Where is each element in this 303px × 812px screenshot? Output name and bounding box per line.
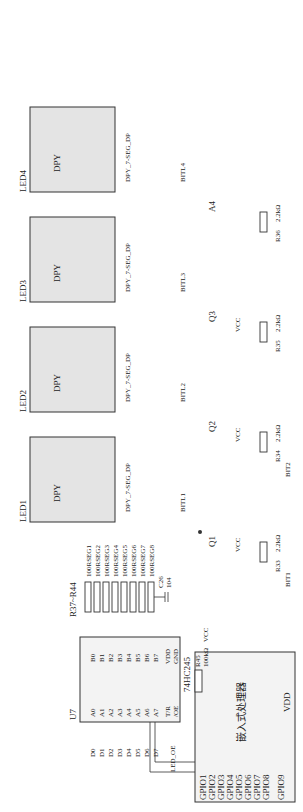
- buffer-ref: U7: [68, 709, 78, 720]
- svg-text:R35: R35: [274, 340, 282, 352]
- svg-text:B0: B0: [89, 653, 97, 662]
- svg-text:/OE: /OE: [172, 706, 180, 717]
- svg-text:100RSEG6: 100RSEG6: [130, 545, 138, 577]
- svg-text:VCC: VCC: [234, 427, 242, 442]
- svg-text:A0: A0: [89, 708, 97, 717]
- display-led3: LED3 DPY DPY_7-SEG_DP: [18, 217, 132, 302]
- svg-text:2.2kΩ: 2.2kΩ: [274, 315, 282, 332]
- svg-text:D3: D3: [116, 748, 124, 757]
- svg-text:DPY: DPY: [52, 153, 62, 172]
- svg-text:GPIO9: GPIO9: [276, 774, 286, 800]
- svg-text:LED3: LED3: [18, 280, 28, 302]
- svg-text:Q1: Q1: [207, 536, 217, 547]
- svg-text:DPY: DPY: [52, 263, 62, 282]
- svg-text:DPY_7-SEG_DP: DPY_7-SEG_DP: [124, 133, 132, 182]
- svg-text:104: 104: [165, 577, 173, 588]
- svg-text:D6: D6: [143, 748, 151, 757]
- svg-text:D4: D4: [125, 748, 133, 757]
- svg-text:R45: R45: [194, 655, 202, 667]
- transistor-a4: A4 BITL4 R36 2.2kΩ: [179, 162, 282, 242]
- svg-text:R34: R34: [274, 450, 282, 462]
- svg-text:DPY: DPY: [52, 483, 62, 502]
- svg-text:A6: A6: [143, 708, 151, 717]
- processor-bottom-pins: VDD: [282, 692, 292, 712]
- svg-text:T/R: T/R: [164, 706, 172, 717]
- svg-text:GPIO8: GPIO8: [261, 774, 271, 800]
- svg-text:BITL2: BITL2: [179, 382, 187, 402]
- svg-text:Q3: Q3: [207, 311, 217, 322]
- data-net-labels: D0 D1 D2 D3 D4 D5 D6 D7 LED_OE: [89, 746, 177, 772]
- transistor-q3: Q3 VCC BITL3 R35 2.2kΩ: [179, 272, 282, 352]
- svg-text:B5: B5: [134, 653, 142, 662]
- svg-text:A3: A3: [116, 708, 124, 717]
- svg-text:100RSEG7: 100RSEG7: [139, 545, 147, 577]
- svg-text:BIT1: BIT1: [284, 572, 292, 587]
- buffer-part: 74HC245: [182, 656, 192, 692]
- svg-text:BITL1: BITL1: [179, 492, 187, 512]
- svg-text:D7: D7: [152, 748, 160, 757]
- svg-text:VDD: VDD: [164, 649, 172, 664]
- svg-text:100RSEG4: 100RSEG4: [112, 545, 120, 577]
- svg-text:LED_OE: LED_OE: [169, 746, 177, 772]
- svg-text:GND: GND: [172, 649, 180, 664]
- svg-text:100kΩ: 100kΩ: [202, 648, 210, 667]
- transistor-q2: Q2 VCC BITL2 R34 2.2kΩ BIT2: [179, 382, 292, 477]
- svg-text:A2: A2: [107, 708, 115, 717]
- svg-text:B3: B3: [116, 653, 124, 662]
- svg-text:100RSEG2: 100RSEG2: [94, 545, 102, 577]
- svg-text:2.2kΩ: 2.2kΩ: [274, 535, 282, 552]
- svg-text:A5: A5: [134, 708, 142, 717]
- svg-text:Q2: Q2: [207, 421, 217, 432]
- svg-text:D5: D5: [134, 748, 142, 757]
- svg-text:BITL3: BITL3: [179, 272, 187, 292]
- svg-text:DPY_7-SEG_DP: DPY_7-SEG_DP: [124, 353, 132, 402]
- svg-text:B1: B1: [98, 653, 106, 662]
- transistor-q1: Q1 VCC BITL1 R33 2.2kΩ BIT1: [179, 492, 292, 587]
- schematic-canvas: 嵌入式处理器 GPIO1 GPIO2 GPIO3 GPIO4 GPIO5 GPI…: [0, 0, 303, 812]
- svg-text:A1: A1: [98, 708, 106, 717]
- svg-text:B4: B4: [125, 653, 133, 662]
- processor-label: 嵌入式处理器: [235, 682, 247, 742]
- svg-text:BITL4: BITL4: [179, 162, 187, 182]
- svg-text:D2: D2: [107, 748, 115, 757]
- svg-text:100RSEG5: 100RSEG5: [121, 545, 129, 577]
- svg-text:R33: R33: [274, 560, 282, 572]
- svg-text:LED1: LED1: [18, 500, 28, 522]
- svg-text:DPY_7-SEG_DP: DPY_7-SEG_DP: [124, 463, 132, 512]
- svg-text:LED4: LED4: [18, 170, 28, 192]
- svg-text:BIT2: BIT2: [284, 462, 292, 477]
- svg-text:100RSEG3: 100RSEG3: [103, 545, 111, 577]
- svg-text:LED2: LED2: [18, 390, 28, 412]
- processor-block: 嵌入式处理器 GPIO1 GPIO2 GPIO3 GPIO4 GPIO5 GPI…: [195, 652, 295, 802]
- svg-text:C26: C26: [157, 576, 165, 588]
- svg-text:2.2kΩ: 2.2kΩ: [274, 425, 282, 442]
- svg-text:B7: B7: [152, 653, 160, 662]
- svg-text:VDD: VDD: [282, 692, 292, 712]
- svg-text:R36: R36: [274, 230, 282, 242]
- svg-text:VCC: VCC: [234, 537, 242, 552]
- svg-text:D1: D1: [98, 748, 106, 757]
- svg-text:DPY_7-SEG_DP: DPY_7-SEG_DP: [124, 243, 132, 292]
- display-led1: LED1 DPY DPY_7-SEG_DP: [18, 437, 132, 522]
- svg-text:100RSEG8: 100RSEG8: [148, 545, 156, 577]
- svg-text:VCC: VCC: [202, 627, 210, 642]
- svg-text:2.2kΩ: 2.2kΩ: [274, 205, 282, 222]
- svg-text:100RSEG1: 100RSEG1: [85, 545, 93, 577]
- display-led2: LED2 DPY DPY_7-SEG_DP: [18, 327, 132, 412]
- svg-text:A4: A4: [125, 708, 133, 717]
- svg-text:B6: B6: [143, 653, 151, 662]
- svg-text:A7: A7: [152, 708, 160, 717]
- svg-text:B2: B2: [107, 653, 115, 662]
- segment-resistor-array: R37~R44 100RSEG1 100RSEG2 100RSEG3 100RS…: [68, 545, 156, 617]
- buffer-ic: U7 74HC245 A0 A1 A2 A3 A4 A5 A6 A7 B0 B1…: [68, 637, 192, 722]
- svg-text:VCC: VCC: [234, 317, 242, 332]
- svg-text:R37~R44: R37~R44: [68, 582, 78, 617]
- svg-text:A4: A4: [207, 201, 217, 212]
- svg-text:DPY: DPY: [52, 373, 62, 392]
- display-led4: LED4 DPY DPY_7-SEG_DP: [18, 107, 132, 192]
- svg-text:D0: D0: [89, 748, 97, 757]
